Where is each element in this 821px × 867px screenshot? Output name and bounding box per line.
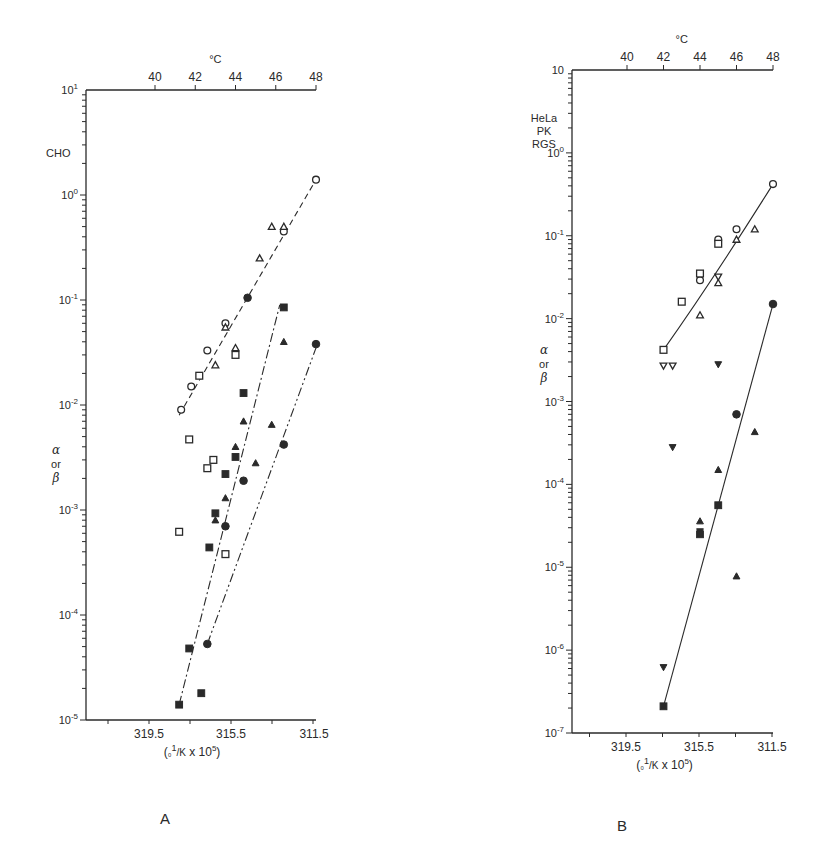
- series-filled-triangle: [212, 338, 287, 523]
- cell-line-label-a: CHO: [46, 147, 70, 160]
- filled-triangle-marker: [222, 495, 229, 501]
- cell-line-label-b: HeLa PK RGS: [524, 112, 564, 151]
- top-axis-unit: °C: [209, 53, 221, 65]
- open-circle-marker: [733, 226, 740, 233]
- filled-circle-marker: [769, 300, 777, 308]
- y-axis-label-a: α or β: [46, 443, 66, 485]
- y-tick-label: 10-3: [59, 502, 79, 516]
- filled-circle-marker: [280, 441, 288, 449]
- top-x-tick-label: 42: [189, 70, 203, 84]
- filled-triangle-marker: [280, 338, 287, 344]
- top-x-tick-label: 46: [269, 70, 283, 84]
- top-x-tick-label: 48: [766, 50, 780, 64]
- axes: [80, 85, 316, 724]
- top-x-tick-label: 46: [730, 50, 744, 64]
- filled-square-marker: [232, 454, 239, 461]
- filled-inv-triangle-marker: [715, 362, 722, 368]
- filled-square-marker: [715, 502, 722, 509]
- cell-line-pk: PK: [524, 125, 564, 138]
- y-label-beta: β: [534, 371, 554, 385]
- panel-label-a: A: [160, 810, 170, 827]
- open-inv-triangle-marker: [660, 363, 667, 369]
- open-square-marker: [204, 465, 211, 472]
- filled-circle-marker: [240, 477, 248, 485]
- filled-triangle-marker: [268, 421, 275, 427]
- open-square-marker: [176, 528, 183, 535]
- open-circle-marker: [770, 181, 777, 188]
- series-filled-circle: [204, 294, 320, 648]
- figure: 10110010-110-210-310-410-54042444648°C31…: [0, 0, 821, 867]
- top-x-tick-label: 48: [309, 70, 323, 84]
- filled-square-marker: [222, 471, 229, 478]
- bottom-x-tick-label: 319.5: [134, 727, 164, 741]
- open-circle-marker: [178, 406, 185, 413]
- open-triangle-marker: [268, 223, 275, 229]
- filled-triangle-marker: [715, 466, 722, 472]
- y-tick-label: 10: [552, 64, 564, 76]
- filled-inv-triangle-marker: [669, 445, 676, 451]
- filled-square-marker: [280, 304, 287, 311]
- filled-square-marker: [212, 510, 219, 517]
- y-label-beta: β: [46, 471, 66, 485]
- axes: [566, 65, 773, 737]
- filled-circle-marker: [733, 411, 741, 419]
- filled-square-marker: [176, 701, 183, 708]
- filled-square-marker: [206, 544, 213, 551]
- series-open-circle: [697, 181, 777, 284]
- y-tick-label: 10-5: [59, 712, 79, 726]
- open-triangle-marker: [256, 255, 263, 261]
- y-tick-label: 10-1: [545, 228, 565, 242]
- panel-label-b: B: [617, 817, 627, 834]
- filled-inv-triangle-marker: [660, 665, 667, 671]
- filled-square-marker: [198, 690, 205, 697]
- open-square-marker: [232, 352, 239, 359]
- y-tick-label: 10-6: [545, 642, 565, 656]
- series-filled-square: [176, 304, 287, 708]
- bottom-x-tick-label: 311.5: [757, 740, 786, 754]
- y-tick-label: 10-1: [59, 292, 79, 306]
- open-circle-marker: [204, 347, 211, 354]
- filled-triangle-marker: [751, 428, 758, 434]
- open-triangle-marker: [232, 344, 239, 350]
- filled-square-marker: [697, 531, 704, 538]
- open-circle-marker: [697, 277, 704, 284]
- filled-circle-marker: [244, 294, 252, 302]
- series-open-inv-triangle: [660, 274, 722, 369]
- bottom-x-tick-label: 315.5: [216, 727, 246, 741]
- y-tick-label: 100: [61, 187, 78, 201]
- open-square-marker: [660, 346, 667, 353]
- y-tick-label: 10-2: [59, 397, 79, 411]
- open-circle-marker: [313, 176, 320, 183]
- fit-line-solid: [664, 184, 774, 350]
- filled-circle-marker: [222, 522, 230, 530]
- filled-triangle-marker: [252, 460, 259, 466]
- y-tick-label: 10-5: [545, 559, 565, 573]
- bottom-x-tick-label: 319.5: [611, 740, 641, 754]
- y-tick-label: 10-7: [545, 725, 565, 739]
- open-triangle-marker: [280, 223, 287, 229]
- open-square-marker: [222, 551, 229, 558]
- open-square-marker: [196, 372, 203, 379]
- open-square-marker: [715, 240, 722, 247]
- top-x-tick-label: 40: [620, 50, 634, 64]
- y-axis-label-b: α or β: [534, 343, 554, 385]
- y-label-or: or: [534, 357, 554, 371]
- open-triangle-marker: [751, 226, 758, 232]
- filled-triangle-marker: [212, 517, 219, 523]
- filled-triangle-marker: [240, 418, 247, 424]
- y-tick-label: 10-4: [59, 607, 79, 621]
- y-label-alpha: α: [46, 443, 66, 457]
- open-square-marker: [210, 457, 217, 464]
- filled-triangle-marker: [232, 443, 239, 449]
- y-tick-label: 10-2: [545, 311, 565, 325]
- filled-square-marker: [660, 703, 667, 710]
- cell-line-hela: HeLa: [524, 112, 564, 125]
- y-tick-label: 101: [61, 82, 78, 96]
- chart-panel-a: 10110010-110-210-310-410-54042444648°C31…: [59, 53, 329, 759]
- filled-circle-marker: [312, 340, 320, 348]
- filled-square-marker: [186, 645, 193, 652]
- filled-triangle-marker: [733, 573, 740, 579]
- bottom-x-tick-label: 311.5: [299, 727, 328, 741]
- top-x-tick-label: 44: [229, 70, 243, 84]
- top-x-tick-label: 40: [148, 70, 162, 84]
